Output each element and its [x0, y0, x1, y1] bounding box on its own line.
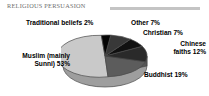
header-rule [110, 7, 200, 10]
pie-label-muslim: Muslim (mainly Sunni) 53% [2, 52, 70, 67]
pie-label-chinese-faiths-line1: Chinese [180, 40, 206, 47]
pie-label-traditional-beliefs: Traditional beliefs 2% [26, 19, 93, 27]
pie-label-muslim-line1: Muslim (mainly [22, 52, 70, 59]
pie-label-chinese-faiths-line2: faiths 12% [173, 48, 206, 55]
pie-slices [61, 35, 147, 77]
page-title: RELIGIOUS PERSUASION [7, 2, 86, 9]
pie-label-other: Other 7% [131, 19, 160, 27]
pie-label-muslim-line2: Sunni) 53% [34, 60, 70, 67]
pie-label-buddhist: Buddhist 19% [144, 71, 188, 79]
pie-label-chinese-faiths: Chinese faiths 12% [152, 40, 206, 55]
religious-persuasion-figure: RELIGIOUS PERSUASION [0, 0, 209, 96]
pie-chart-svg [61, 27, 149, 93]
pie-chart [61, 27, 149, 93]
pie-label-christian: Christian 7% [143, 29, 183, 37]
